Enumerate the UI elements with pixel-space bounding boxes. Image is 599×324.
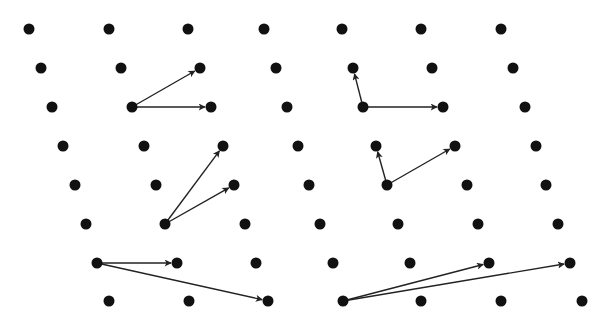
- lattice-point: [240, 219, 251, 230]
- lattice-point: [405, 258, 416, 269]
- basis-vector-arrow: [343, 265, 483, 301]
- basis-vector-arrow: [343, 264, 564, 301]
- lattice-point: [462, 180, 473, 191]
- basis-vector-arrow: [165, 188, 229, 224]
- lattice-point: [541, 180, 552, 191]
- lattice-point: [271, 63, 282, 74]
- lattice-point: [195, 63, 206, 74]
- lattice-point: [416, 296, 427, 307]
- lattice-point: [520, 102, 531, 113]
- lattice-point: [139, 141, 150, 152]
- lattice-point: [531, 141, 542, 152]
- lattice-point: [315, 219, 326, 230]
- lattice-point: [450, 141, 461, 152]
- lattice-point: [263, 296, 274, 307]
- lattice-point: [251, 258, 262, 269]
- lattice-point: [104, 24, 115, 35]
- basis-vector-arrow: [132, 71, 195, 107]
- basis-pair-3: [165, 151, 229, 224]
- lattice-point: [293, 141, 304, 152]
- basis-vector-arrow: [97, 263, 262, 300]
- basis-vector-arrow: [387, 149, 450, 185]
- lattice-point: [183, 24, 194, 35]
- lattice-point: [393, 219, 404, 230]
- lattice-point: [484, 258, 495, 269]
- lattice-point: [553, 219, 564, 230]
- lattice-point: [47, 102, 58, 113]
- lattice-point: [218, 141, 229, 152]
- lattice-point: [358, 102, 369, 113]
- lattice-point: [160, 219, 171, 230]
- lattice-point: [508, 63, 519, 74]
- lattice-point: [184, 296, 195, 307]
- lattice-point: [24, 24, 35, 35]
- lattice-point: [473, 219, 484, 230]
- lattice-point: [427, 63, 438, 74]
- lattice-point: [206, 102, 217, 113]
- lattice-point: [565, 258, 576, 269]
- lattice-point: [104, 296, 115, 307]
- lattice-point: [127, 102, 138, 113]
- basis-pair-5: [97, 263, 262, 300]
- lattice-point: [371, 141, 382, 152]
- lattice-points: [24, 24, 588, 307]
- lattice-point: [282, 102, 293, 113]
- lattice-point: [81, 219, 92, 230]
- lattice-point: [382, 180, 393, 191]
- lattice-point: [348, 63, 359, 74]
- basis-pair-2: [354, 74, 437, 107]
- lattice-point: [92, 258, 103, 269]
- lattice-point: [496, 296, 507, 307]
- lattice-point: [259, 24, 270, 35]
- lattice-point: [151, 180, 162, 191]
- lattice-point: [438, 102, 449, 113]
- lattice-point: [496, 24, 507, 35]
- basis-pair-4: [378, 149, 450, 185]
- lattice-point: [577, 296, 588, 307]
- lattice-point: [116, 63, 127, 74]
- lattice-point: [338, 296, 349, 307]
- basis-pair-1: [132, 71, 205, 107]
- basis-vector-arrow: [165, 151, 219, 224]
- lattice-point: [416, 24, 427, 35]
- basis-pair-6: [343, 264, 564, 301]
- lattice-point: [304, 180, 315, 191]
- lattice-diagram: [0, 0, 599, 324]
- lattice-point: [36, 63, 47, 74]
- lattice-point: [328, 258, 339, 269]
- lattice-point: [58, 141, 69, 152]
- lattice-point: [70, 180, 81, 191]
- lattice-point: [229, 180, 240, 191]
- lattice-point: [172, 258, 183, 269]
- lattice-point: [337, 24, 348, 35]
